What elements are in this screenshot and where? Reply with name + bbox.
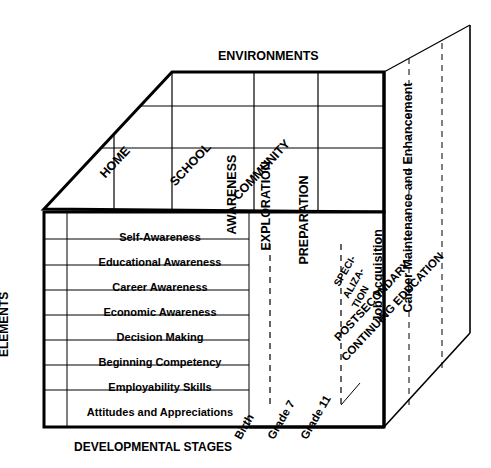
- title-environments: ENVIRONMENTS: [218, 50, 319, 63]
- element-career-awareness: Career Awareness: [85, 282, 235, 293]
- element-beginning-competency: Beginning Competency: [85, 357, 235, 368]
- right-face: [384, 25, 470, 427]
- top-face: [44, 72, 384, 212]
- cube-figure: [0, 0, 491, 468]
- phase-exploration: EXPLORATION: [260, 161, 273, 250]
- right-bottom-edge: [384, 333, 470, 427]
- element-self-awareness: Self-Awareness: [85, 232, 235, 243]
- element-educational-awareness: Educational Awareness: [85, 257, 235, 268]
- element-decision-making: Decision Making: [85, 332, 235, 343]
- front-face: [44, 212, 384, 427]
- right-top-edge: [384, 25, 470, 72]
- diagram-canvas: ENVIRONMENTS DEVELOPMENTAL STAGES ELEMEN…: [0, 0, 491, 468]
- element-economic-awareness: Economic Awareness: [85, 307, 235, 318]
- element-attitudes-and-appreciations: Attitudes and Appreciations: [77, 407, 243, 418]
- element-employability-skills: Employability Skills: [85, 382, 235, 393]
- front-face-outline: [44, 212, 384, 427]
- title-developmental-stages: DEVELOPMENTAL STAGES: [74, 441, 232, 453]
- phase-preparation: PREPARATION: [298, 175, 311, 264]
- phase-awareness: AWARENESS: [226, 155, 239, 235]
- top-face-outline: [44, 72, 384, 212]
- axis-label-elements: ELEMENTS: [0, 292, 10, 357]
- label-career-maintenance: Career Maintenance and Enhancement: [402, 83, 415, 313]
- label-job-acquisition: Job Acquisition: [372, 229, 385, 322]
